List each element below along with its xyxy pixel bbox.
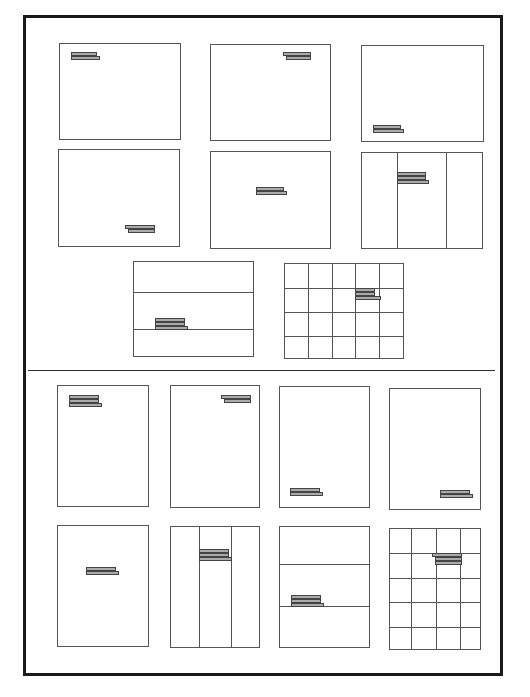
column-divider: [355, 264, 356, 358]
column-divider: [446, 153, 447, 248]
page-thumbnail-p-rows: [279, 526, 370, 648]
page-thumbnail-p-grid: [389, 528, 481, 650]
column-divider: [397, 153, 398, 248]
row-divider: [390, 578, 480, 579]
page-thumbnail-p-top-right: [170, 385, 260, 508]
text-line-bar: [290, 492, 323, 496]
text-line-bar: [71, 56, 100, 60]
row-divider: [280, 564, 369, 565]
row-divider: [390, 602, 480, 603]
column-divider: [332, 264, 333, 358]
page-thumbnail-p-bottom-left: [279, 386, 370, 508]
row-divider: [285, 312, 403, 313]
page-thumbnail-l-bottom-right: [58, 149, 180, 247]
column-divider: [460, 529, 461, 649]
page-thumbnail-l-bottom-left: [361, 45, 484, 142]
page-thumbnail-p-columns: [170, 526, 260, 648]
row-divider: [390, 627, 480, 628]
text-line-bar: [397, 180, 429, 184]
page-thumbnail-l-top-left: [59, 43, 181, 140]
text-line-bar: [435, 561, 462, 565]
row-divider: [134, 329, 253, 330]
text-line-bar: [291, 603, 324, 607]
page-thumbnail-l-columns: [361, 152, 483, 249]
text-line-bar: [355, 296, 381, 300]
column-divider: [411, 529, 412, 649]
text-line-bar: [286, 56, 311, 60]
page-thumbnail-p-top-left: [57, 385, 149, 507]
column-divider: [379, 264, 380, 358]
text-line-bar: [128, 229, 155, 233]
row-divider: [134, 292, 253, 293]
section-divider: [28, 370, 495, 371]
page-thumbnail-p-bottom-right: [389, 388, 481, 510]
page-thumbnail-l-center: [210, 151, 331, 249]
text-line-bar: [373, 129, 404, 133]
text-line-bar: [86, 571, 119, 575]
page-thumbnail-l-grid: [284, 263, 404, 359]
text-line-bar: [440, 494, 473, 498]
column-divider: [308, 264, 309, 358]
column-divider: [231, 527, 232, 647]
text-line-bar: [69, 403, 102, 407]
column-divider: [199, 527, 200, 647]
page-thumbnail-l-rows: [133, 261, 254, 357]
row-divider: [285, 336, 403, 337]
text-line-bar: [199, 557, 232, 561]
column-divider: [436, 529, 437, 649]
text-line-bar: [155, 326, 188, 330]
page-thumbnail-p-center: [57, 525, 149, 647]
row-divider: [285, 288, 403, 289]
text-line-bar: [256, 191, 287, 195]
page-thumbnail-l-top-right: [210, 44, 331, 141]
text-line-bar: [224, 399, 251, 403]
